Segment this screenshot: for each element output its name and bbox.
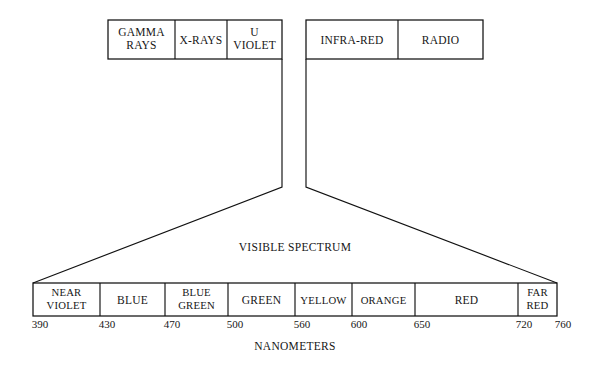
vis-band-far-red-line2: RED [527,299,549,311]
vis-band-blue-green-line1: BLUE [182,286,211,298]
scale-tick-650: 650 [414,318,431,330]
vis-band-yellow[interactable]: YELLOW [300,294,347,306]
em-band-gamma-rays[interactable]: GAMMA RAYS [118,26,165,51]
scale-tick-560: 560 [294,318,311,330]
em-band-radio-label: RADIO [422,34,459,46]
em-band-gamma-rays-line2: RAYS [126,39,156,51]
em-band-infra-red-label: INFRA-RED [320,34,383,46]
vis-band-blue-label: BLUE [117,294,148,306]
em-band-u-violet-line2: VIOLET [233,39,276,51]
vis-band-yellow-label: YELLOW [300,294,347,306]
em-band-gamma-rays-line1: GAMMA [118,26,165,38]
scale-tick-600: 600 [351,318,368,330]
vis-band-far-red-line1: FAR [527,286,548,298]
visible-spectrum-bar-group: NEAR VIOLET BLUE BLUE GREEN GREEN YELLOW… [33,283,557,316]
em-band-x-rays[interactable]: X-RAYS [180,34,223,46]
scale-tick-470: 470 [164,318,181,330]
nanometers-axis-label: NANOMETERS [254,340,336,352]
em-spectrum-bar-group: GAMMA RAYS X-RAYS U VIOLET INFRA-RED RAD… [108,20,483,59]
nanometer-scale-ticks: 390 430 470 500 560 600 650 720 760 [32,318,572,330]
vis-band-red-label: RED [455,294,479,306]
em-band-infra-red[interactable]: INFRA-RED [320,34,383,46]
em-band-radio[interactable]: RADIO [422,34,459,46]
vis-band-blue[interactable]: BLUE [117,294,148,306]
vis-band-near-violet-line2: VIOLET [47,299,87,311]
vis-band-orange[interactable]: ORANGE [361,294,407,306]
vis-band-orange-label: ORANGE [361,294,407,306]
scale-tick-390: 390 [32,318,49,330]
vis-band-green-label: GREEN [242,294,282,306]
vis-band-green[interactable]: GREEN [242,294,282,306]
scale-tick-500: 500 [227,318,244,330]
scale-tick-720: 720 [516,318,533,330]
vis-band-blue-green-line2: GREEN [178,299,215,311]
vis-band-near-violet[interactable]: NEAR VIOLET [47,286,87,311]
visible-spectrum-caption: VISIBLE SPECTRUM [239,241,351,253]
em-band-u-violet[interactable]: U VIOLET [233,26,276,51]
scale-tick-430: 430 [99,318,116,330]
em-band-u-violet-line1: U [250,26,259,38]
electromagnetic-spectrum-diagram: GAMMA RAYS X-RAYS U VIOLET INFRA-RED RAD… [0,0,590,372]
vis-band-blue-green[interactable]: BLUE GREEN [178,286,215,311]
vis-band-near-violet-line1: NEAR [52,286,83,298]
em-band-x-rays-label: X-RAYS [180,34,223,46]
scale-tick-760: 760 [555,318,572,330]
vis-band-red[interactable]: RED [455,294,479,306]
vis-band-far-red[interactable]: FAR RED [527,286,549,311]
